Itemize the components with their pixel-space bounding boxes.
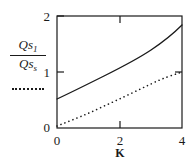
x-axis-title: K <box>115 146 125 159</box>
y-tick-label-2: 2 <box>44 9 51 24</box>
y-tick-label-0: 0 <box>44 120 51 135</box>
plot-frame <box>57 16 182 128</box>
series-solid-line <box>57 25 182 99</box>
plot-area: 2 1 0 0 2 4 K <box>0 0 196 159</box>
x-tick-label-4: 4 <box>179 133 186 148</box>
chart-figure: Qs1 Qss 2 1 0 0 2 4 K <box>0 0 196 159</box>
x-tick-label-0: 0 <box>54 133 61 148</box>
y-tick-label-1: 1 <box>44 65 51 80</box>
series-dotted-line <box>57 72 182 126</box>
